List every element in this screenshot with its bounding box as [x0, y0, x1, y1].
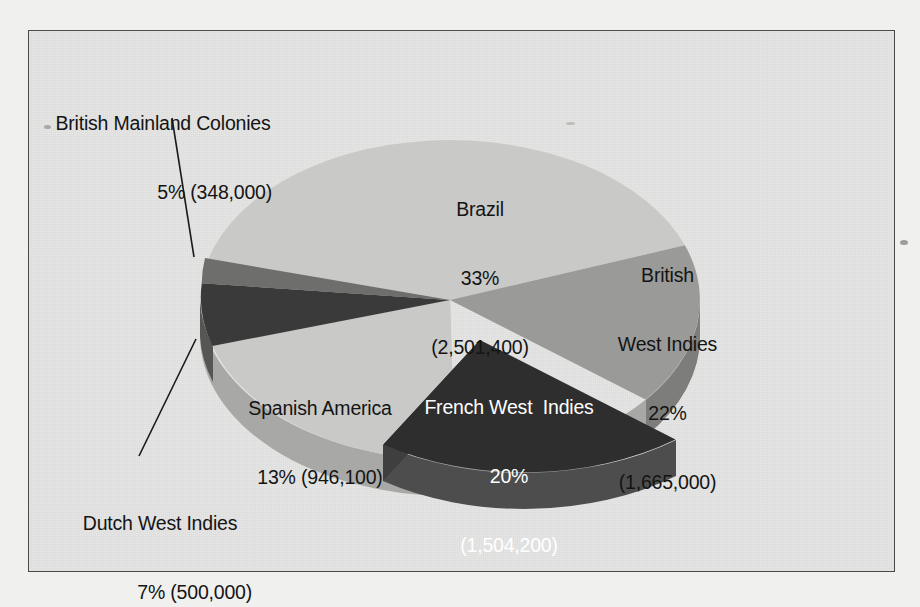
label-dutch-west-indies: Dutch West Indies 7% (500,000)	[46, 466, 274, 607]
label-fwi-line2: 20%	[398, 465, 620, 488]
label-fwi-line3: (1,504,200)	[398, 534, 620, 557]
label-british-mainland-colonies: British Mainland Colonies 5% (348,000)	[38, 66, 288, 250]
label-fwi-line1: French West Indies	[398, 396, 620, 419]
leader-line-dutch-west-indies	[139, 339, 196, 456]
label-spanish-line1: Spanish America	[222, 397, 418, 420]
label-bmc-line1: British Mainland Colonies	[38, 112, 288, 135]
label-bmc-line2: 5% (348,000)	[38, 181, 288, 204]
label-bwi-line1: British	[580, 264, 755, 287]
label-brazil-line2: 33%	[385, 267, 575, 290]
label-brazil-line1: Brazil	[385, 198, 575, 221]
label-french-west-indies: French West Indies 20% (1,504,200)	[398, 350, 620, 603]
label-dutch-line2: 7% (500,000)	[46, 581, 274, 604]
label-dutch-line1: Dutch West Indies	[46, 512, 274, 535]
